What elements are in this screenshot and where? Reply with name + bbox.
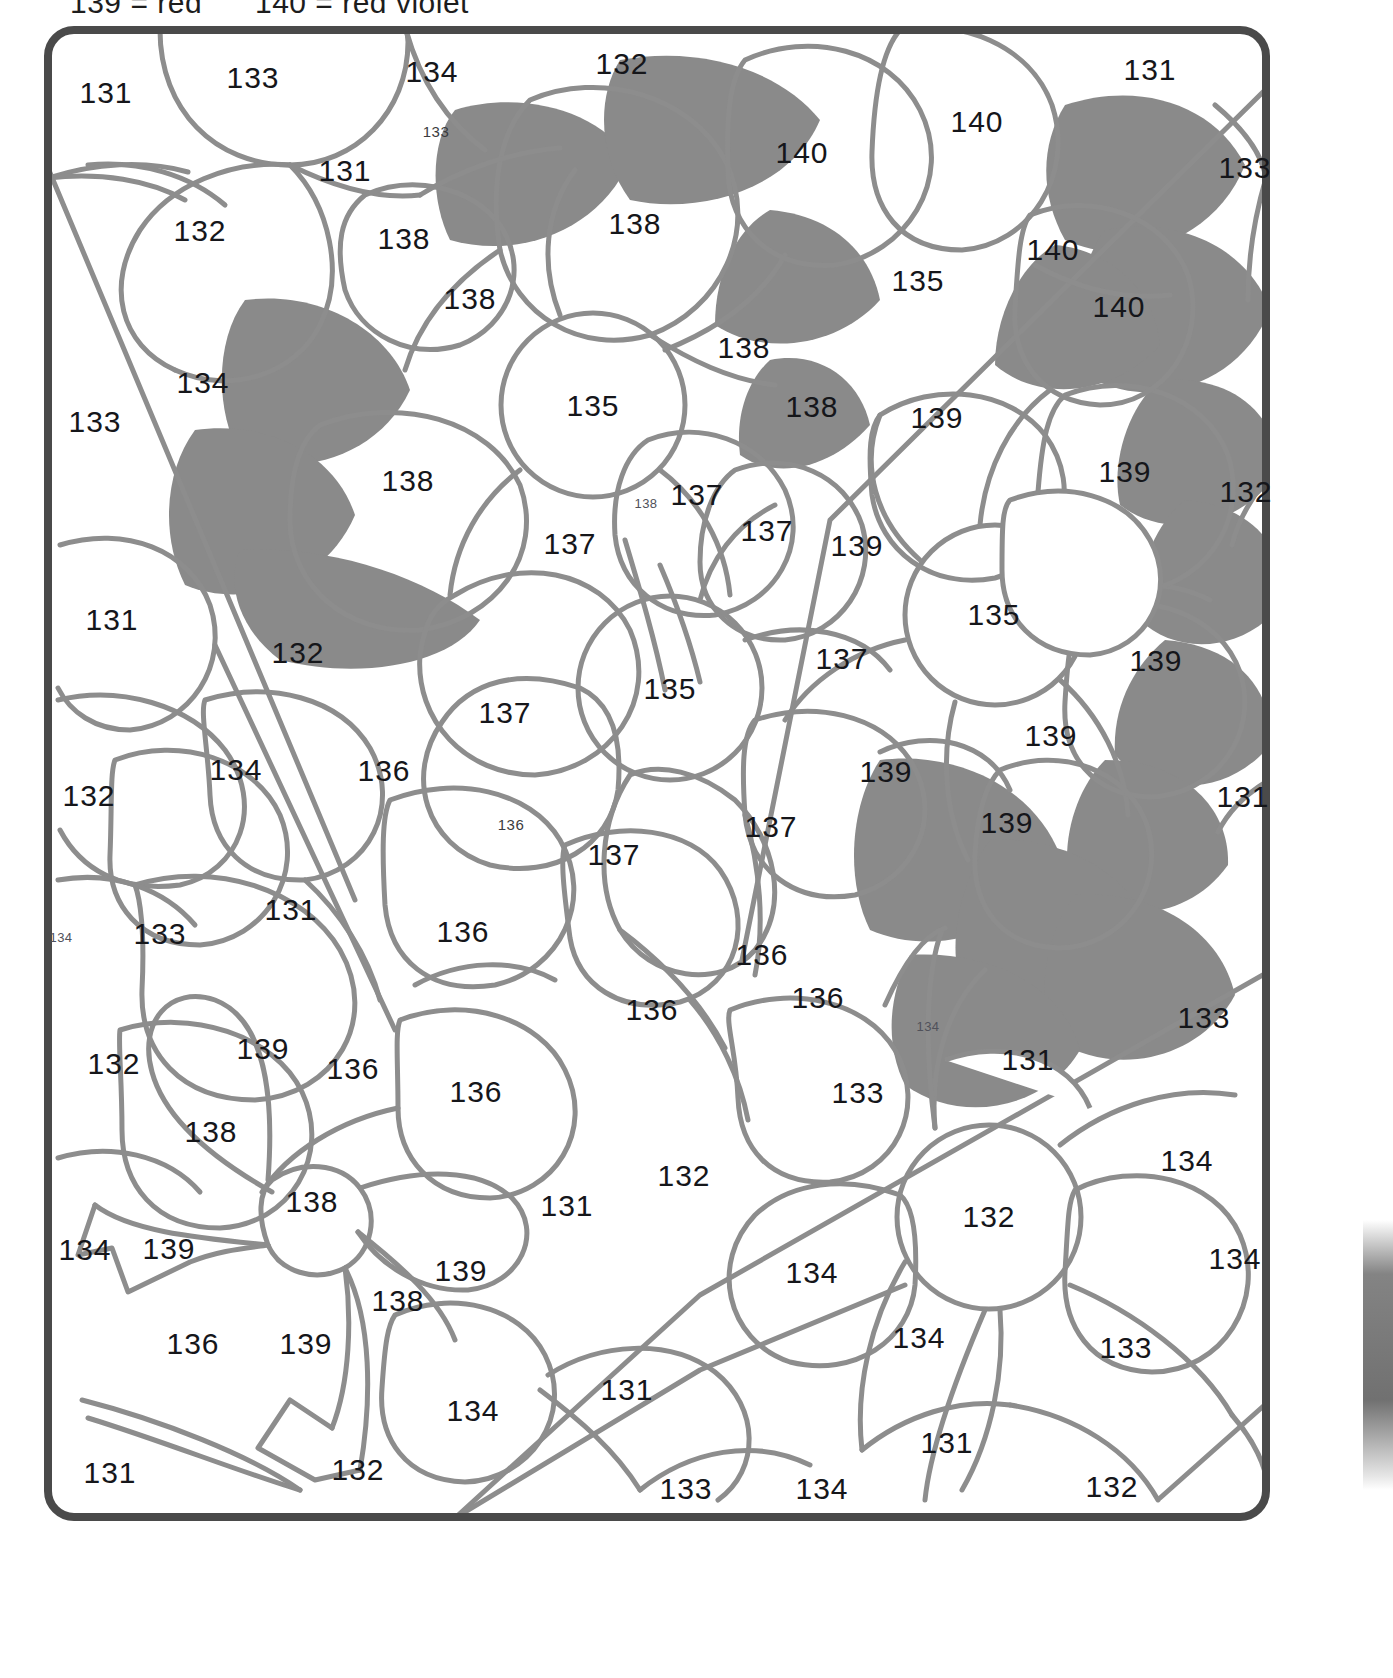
region-number-label: 135 [891, 266, 944, 296]
region-number-label: 136 [326, 1054, 379, 1084]
region-number-label: 132 [962, 1202, 1015, 1232]
region-number-label: 131 [920, 1428, 973, 1458]
region-number-label: 134 [58, 1235, 111, 1265]
region-number-label: 134 [795, 1474, 848, 1504]
coloring-page: 139 = red 140 = red violet [0, 0, 1393, 1678]
region-number-label: 136 [735, 940, 788, 970]
region-number-label: 136 [498, 817, 525, 832]
region-number-label: 137 [478, 698, 531, 728]
region-number-label: 139 [1098, 457, 1151, 487]
region-number-label: 137 [744, 812, 797, 842]
region-number-label: 136 [357, 756, 410, 786]
region-number-label: 139 [859, 757, 912, 787]
region-number-label: 135 [566, 391, 619, 421]
region-number-label: 131 [1123, 55, 1176, 85]
region-number-label: 132 [1085, 1472, 1138, 1502]
region-number-label: 134 [209, 755, 262, 785]
region-number-label: 131 [264, 895, 317, 925]
region-number-label: 139 [142, 1234, 195, 1264]
region-number-label: 136 [791, 983, 844, 1013]
region-number-label: 138 [381, 466, 434, 496]
region-number-label: 133 [68, 407, 121, 437]
region-number-label: 134 [49, 931, 72, 944]
region-number-label: 132 [271, 638, 324, 668]
region-number-label: 139 [236, 1034, 289, 1064]
region-number-label: 134 [892, 1323, 945, 1353]
region-number-label: 132 [173, 216, 226, 246]
region-number-label: 138 [443, 284, 496, 314]
region-number-label: 139 [434, 1256, 487, 1286]
region-number-label: 131 [83, 1458, 136, 1488]
region-number-label: 134 [916, 1020, 939, 1033]
region-number-label: 138 [371, 1286, 424, 1316]
region-number-label: 137 [543, 529, 596, 559]
region-number-label: 138 [285, 1187, 338, 1217]
region-number-label: 139 [910, 403, 963, 433]
region-number-label: 131 [85, 605, 138, 635]
region-number-label: 132 [62, 781, 115, 811]
region-number-label: 134 [405, 57, 458, 87]
coloring-artwork [0, 0, 1393, 1678]
region-number-label: 139 [1024, 721, 1077, 751]
region-number-label: 133 [1218, 153, 1271, 183]
region-number-label: 136 [166, 1329, 219, 1359]
region-number-label: 132 [1219, 477, 1272, 507]
region-number-label: 132 [331, 1455, 384, 1485]
region-number-label: 138 [785, 392, 838, 422]
region-number-label: 133 [226, 63, 279, 93]
region-number-label: 134 [1160, 1146, 1213, 1176]
region-number-label: 136 [625, 995, 678, 1025]
region-number-label: 132 [657, 1161, 710, 1191]
region-number-label: 133 [831, 1078, 884, 1108]
region-number-label: 137 [587, 840, 640, 870]
region-number-label: 133 [1099, 1333, 1152, 1363]
region-number-label: 140 [950, 107, 1003, 137]
region-number-label: 135 [643, 674, 696, 704]
region-number-label: 140 [1026, 235, 1079, 265]
region-number-label: 138 [717, 333, 770, 363]
region-number-label: 134 [446, 1396, 499, 1426]
region-number-label: 134 [176, 368, 229, 398]
region-number-label: 137 [815, 644, 868, 674]
region-number-label: 131 [1216, 782, 1269, 812]
region-number-label: 138 [608, 209, 661, 239]
region-number-label: 137 [670, 480, 723, 510]
region-number-label: 140 [775, 138, 828, 168]
region-number-label: 140 [1092, 292, 1145, 322]
region-number-label: 139 [279, 1329, 332, 1359]
region-number-label: 132 [87, 1049, 140, 1079]
region-number-label: 138 [634, 497, 657, 510]
region-number-label: 138 [377, 224, 430, 254]
region-number-label: 131 [540, 1191, 593, 1221]
region-number-label: 133 [659, 1474, 712, 1504]
region-number-label: 136 [436, 917, 489, 947]
region-number-label: 139 [1129, 646, 1182, 676]
region-number-label: 137 [740, 516, 793, 546]
region-number-label: 131 [318, 156, 371, 186]
region-number-label: 131 [600, 1375, 653, 1405]
region-number-label: 134 [785, 1258, 838, 1288]
region-number-label: 133 [1177, 1003, 1230, 1033]
region-number-label: 136 [449, 1077, 502, 1107]
region-number-label: 132 [595, 49, 648, 79]
region-number-label: 131 [1001, 1045, 1054, 1075]
region-number-label: 139 [830, 531, 883, 561]
region-number-label: 133 [133, 919, 186, 949]
region-number-label: 138 [184, 1117, 237, 1147]
region-number-label: 135 [967, 600, 1020, 630]
region-number-label: 139 [980, 808, 1033, 838]
region-number-label: 133 [423, 124, 450, 139]
region-number-label: 134 [1208, 1244, 1261, 1274]
region-number-label: 131 [79, 78, 132, 108]
